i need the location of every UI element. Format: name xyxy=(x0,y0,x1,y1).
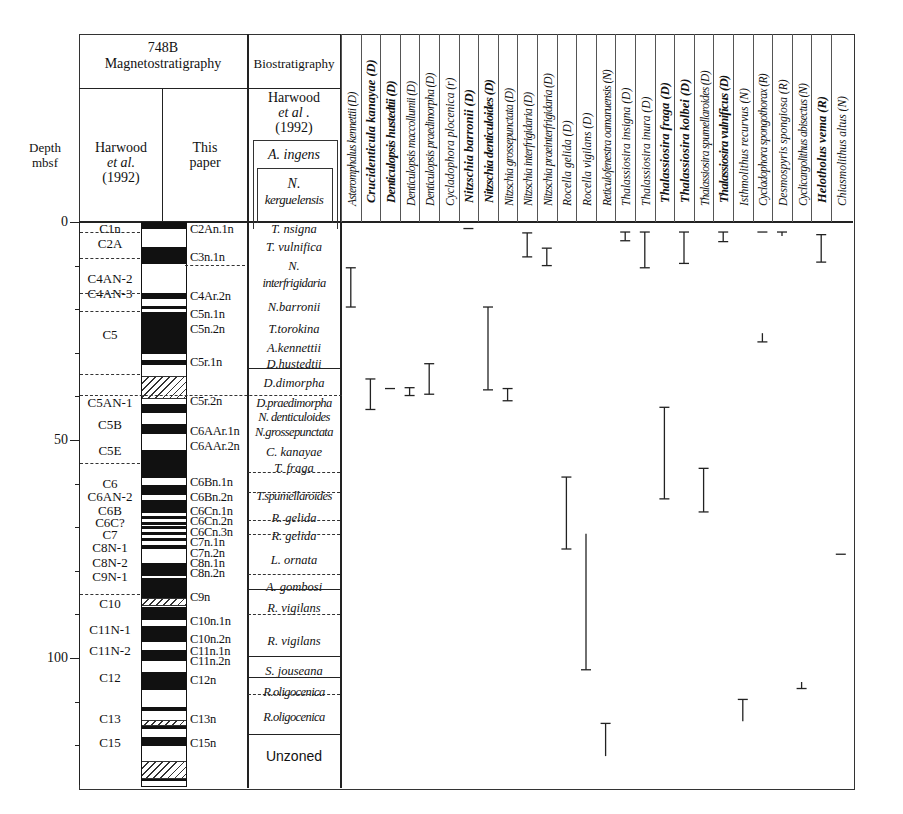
range-bars xyxy=(0,0,903,814)
